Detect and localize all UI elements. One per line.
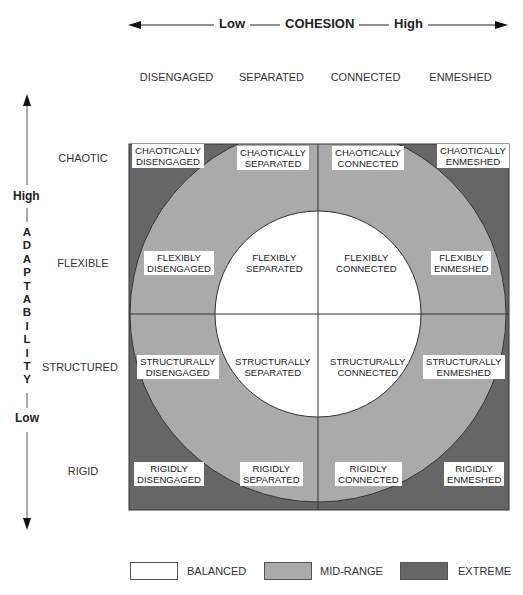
legend-swatch-mid-range xyxy=(264,562,312,580)
legend-label-mid-range: MID-RANGE xyxy=(320,565,383,577)
cell-flexibly-separated: FLEXIBLYSEPARATED xyxy=(243,251,306,275)
cell-structurally-separated: STRUCTURALLYSEPARATED xyxy=(232,355,314,379)
cell-rigidly-separated: RIGIDLYSEPARATED xyxy=(240,462,303,486)
legend-swatch-balanced xyxy=(130,562,178,580)
cell-flexibly-connected: FLEXIBLYCONNECTED xyxy=(333,251,400,275)
cell-chaotically-disengaged: CHAOTICALLYDISENGAGED xyxy=(132,144,204,168)
cell-chaotically-connected: CHAOTICALLYCONNECTED xyxy=(332,146,404,170)
cell-flexibly-enmeshed: FLEXIBLYENMESHED xyxy=(431,251,491,275)
cell-structurally-disengaged: STRUCTURALLYDISENGAGED xyxy=(137,355,219,379)
cell-rigidly-disengaged: RIGIDLYDISENGAGED xyxy=(134,462,204,486)
legend-label-balanced: BALANCED xyxy=(187,565,246,577)
legend-label-extreme: EXTREME xyxy=(458,565,511,577)
cell-chaotically-separated: CHAOTICALLYSEPARATED xyxy=(237,146,309,170)
legend-swatch-extreme xyxy=(400,562,448,580)
cell-structurally-enmeshed: STRUCTURALLYENMESHED xyxy=(423,355,505,379)
cell-structurally-connected: STRUCTURALLYCONNECTED xyxy=(327,355,409,379)
cell-rigidly-enmeshed: RIGIDLYENMESHED xyxy=(444,462,504,486)
cell-flexibly-disengaged: FLEXIBLYDISENGAGED xyxy=(144,251,214,275)
cell-chaotically-enmeshed: CHAOTICALLYENMESHED xyxy=(437,144,509,168)
circumplex-model-diagram xyxy=(0,0,523,595)
cell-rigidly-connected: RIGIDLYCONNECTED xyxy=(335,462,402,486)
